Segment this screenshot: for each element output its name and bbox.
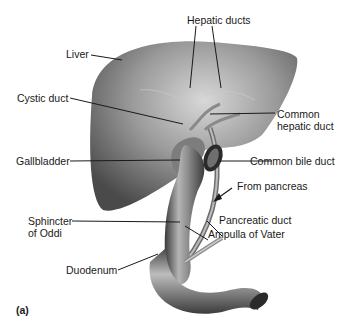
label-liver: Liver (66, 48, 89, 60)
label-hepatic-ducts: Hepatic ducts (187, 14, 251, 26)
label-cystic-duct: Cystic duct (17, 92, 68, 104)
duodenum-shape (150, 248, 262, 314)
label-duodenum: Duodenum (66, 264, 117, 276)
label-sphincter-line2: of Oddi (28, 227, 62, 239)
panel-label: (a) (16, 304, 29, 316)
label-gallbladder: Gallbladder (16, 155, 70, 167)
label-common-hepatic-duct-line1: Common (277, 108, 320, 120)
label-pancreatic-duct: Pancreatic duct (219, 214, 291, 226)
label-common-hepatic-duct-line2: hepatic duct (277, 120, 334, 132)
label-common-bile-duct: Common bile duct (250, 155, 335, 167)
label-ampulla-of-vater: Ampulla of Vater (208, 228, 285, 240)
label-sphincter-line1: Sphincter (28, 215, 72, 227)
label-from-pancreas: From pancreas (237, 180, 308, 192)
